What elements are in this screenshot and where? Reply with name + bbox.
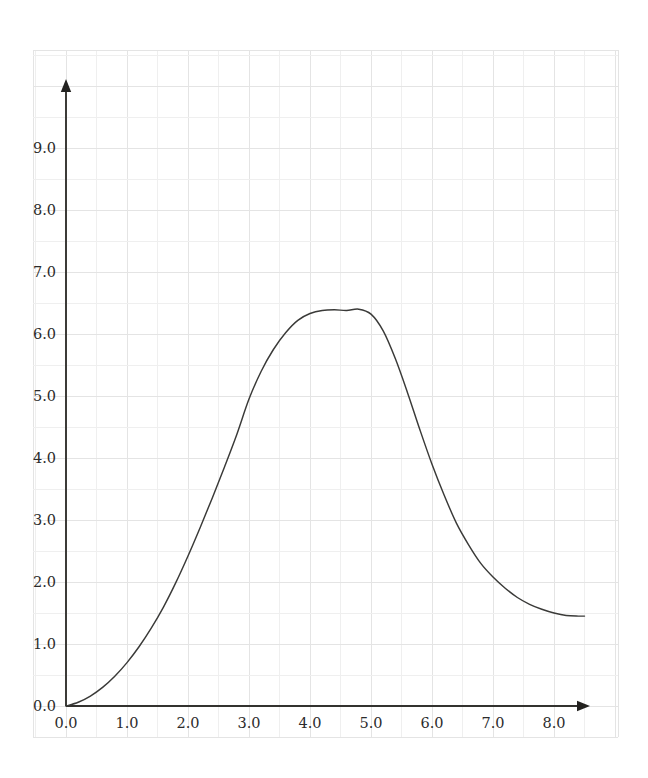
x-tick-label: 5.0 <box>359 715 382 731</box>
x-tick-label: 6.0 <box>420 715 443 731</box>
x-tick-label: 2.0 <box>176 715 199 731</box>
x-tick-label: 4.0 <box>298 715 321 731</box>
y-tick-label: 8.0 <box>33 202 56 218</box>
x-tick-label: 1.0 <box>115 715 138 731</box>
chart-container: 0.01.02.03.04.05.06.07.08.0 0.01.02.03.0… <box>0 0 648 778</box>
y-tick-label: 2.0 <box>33 574 56 590</box>
y-tick-label: 5.0 <box>33 388 56 404</box>
x-tick-label: 3.0 <box>237 715 260 731</box>
y-tick-label: 1.0 <box>33 636 56 652</box>
y-tick-label: 6.0 <box>33 326 56 342</box>
y-tick-label: 9.0 <box>33 140 56 156</box>
x-tick-label: 8.0 <box>542 715 565 731</box>
y-tick-label: 0.0 <box>33 698 56 714</box>
line-chart-figure: 0.01.02.03.04.05.06.07.08.0 0.01.02.03.0… <box>0 0 648 778</box>
y-tick-label: 3.0 <box>33 512 56 528</box>
y-tick-label: 4.0 <box>33 450 56 466</box>
x-tick-label-group: 0.01.02.03.04.05.06.07.08.0 <box>54 715 565 731</box>
x-tick-label: 7.0 <box>481 715 504 731</box>
y-tick-label: 7.0 <box>33 264 56 280</box>
x-tick-label: 0.0 <box>54 715 77 731</box>
